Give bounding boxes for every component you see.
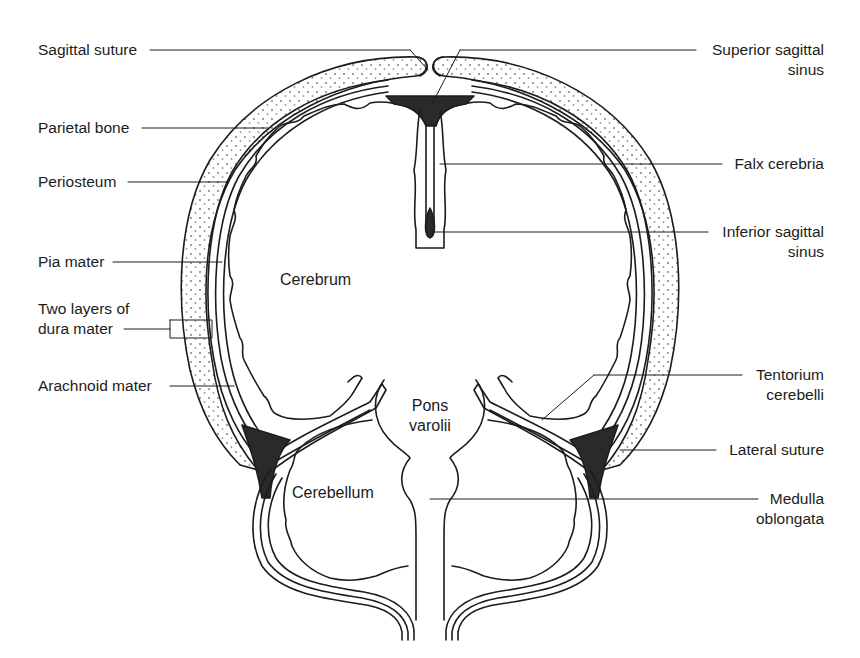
- label-cerebrum: Cerebrum: [280, 270, 351, 290]
- label-parietal-bone: Parietal bone: [38, 118, 129, 138]
- label-medulla-oblongata-line2: oblongata: [756, 509, 824, 529]
- label-superior-sagittal-sinus: Superior sagittal sinus: [712, 40, 824, 80]
- label-dura-mater-line1: Two layers of: [38, 299, 129, 319]
- label-tentorium-cerebelli-line1: Tentorium: [756, 365, 824, 385]
- label-arachnoid-mater: Arachnoid mater: [38, 376, 152, 396]
- meninges-diagram: Sagittal suture Parietal bone Periosteum…: [0, 0, 860, 658]
- label-inferior-sagittal-sinus-line1: Inferior sagittal: [722, 222, 824, 242]
- label-pons-line1: Pons: [398, 396, 462, 416]
- parietal-bone-left: [181, 57, 426, 470]
- inferior-sagittal-sinus-shape: [426, 208, 435, 238]
- label-pia-mater: Pia mater: [38, 252, 104, 272]
- label-sagittal-suture: Sagittal suture: [38, 40, 137, 60]
- label-tentorium-cerebelli: Tentorium cerebelli: [756, 365, 824, 405]
- label-cerebellum: Cerebellum: [292, 483, 374, 503]
- label-tentorium-cerebelli-line2: cerebelli: [756, 385, 824, 405]
- label-medulla-oblongata-line1: Medulla: [756, 489, 824, 509]
- superior-sagittal-sinus-shape: [386, 96, 474, 126]
- label-falx-cerebria: Falx cerebria: [734, 154, 824, 174]
- label-pons-line2: varolii: [398, 416, 462, 436]
- label-pons-varolii: Pons varolii: [398, 396, 462, 436]
- label-inferior-sagittal-sinus: Inferior sagittal sinus: [722, 222, 824, 262]
- cerebellum-right-lobe: [452, 420, 576, 580]
- label-dura-mater: Two layers of dura mater: [38, 299, 129, 339]
- label-periosteum: Periosteum: [38, 172, 116, 192]
- label-inferior-sagittal-sinus-line2: sinus: [722, 242, 824, 262]
- label-medulla-oblongata: Medulla oblongata: [756, 489, 824, 529]
- label-lateral-suture: Lateral suture: [729, 440, 824, 460]
- label-superior-sagittal-sinus-line2: sinus: [712, 60, 824, 80]
- label-dura-mater-line2: dura mater: [38, 319, 129, 339]
- label-superior-sagittal-sinus-line1: Superior sagittal: [712, 40, 824, 60]
